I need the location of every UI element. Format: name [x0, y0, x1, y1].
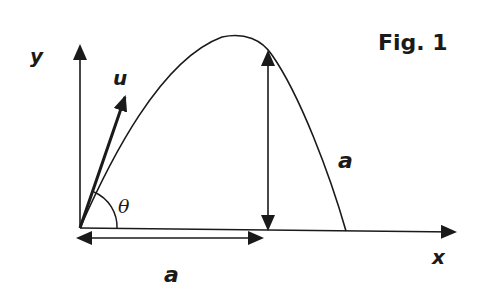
angle-arc [94, 192, 117, 229]
height-label: a [338, 148, 353, 173]
angle-label: θ [118, 195, 130, 217]
velocity-label: u [113, 66, 127, 90]
distance-label: a [164, 262, 179, 287]
y-axis-label: y [30, 44, 44, 68]
figure-title: Fig. 1 [378, 30, 448, 55]
x-axis-label: x [431, 245, 446, 269]
projectile-diagram: y x u θ a a Fig. 1 [0, 0, 483, 301]
